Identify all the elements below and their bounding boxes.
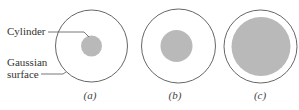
panel-b — [142, 9, 216, 83]
caption-a: (a) — [84, 90, 97, 101]
cylinder-cross-section-c — [232, 17, 291, 76]
panel-c — [224, 10, 297, 83]
caption-c: (c) — [254, 90, 266, 101]
cylinder-cross-section-b — [161, 30, 193, 62]
caption-b: (b) — [169, 90, 182, 101]
gaussian-label-line1: Gaussian — [7, 57, 47, 68]
cylinder-label: Cylinder — [7, 26, 46, 37]
gaussian-label-line2: surface — [7, 69, 39, 80]
cylinder-cross-section-a — [81, 36, 102, 57]
gaussian-leader-line — [41, 72, 66, 74]
panel-a — [56, 10, 128, 82]
cylinder-leader-line — [48, 32, 89, 37]
